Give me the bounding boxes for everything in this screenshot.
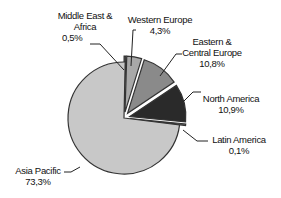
label-value: 4,3% [122, 25, 198, 36]
label-western-europe: Western Europe 4,3% [122, 14, 198, 36]
label-north-america: North America 10,9% [198, 93, 264, 115]
label-name: Asia Pacific [12, 165, 64, 176]
label-value: 10,9% [198, 104, 264, 115]
label-value: 73,3% [12, 176, 64, 187]
label-name: Eastern & [178, 36, 246, 47]
label-eastern-central-europe: Eastern & Central Europe 10,8% [178, 36, 246, 69]
label-asia-pacific: Asia Pacific 73,3% [12, 165, 64, 187]
label-name: Africa [50, 21, 120, 32]
label-value: 0,5% [50, 32, 120, 43]
leader-line-la [183, 130, 208, 141]
label-middle-east-africa: Middle East & Africa 0,5% [50, 10, 120, 43]
leader-line-asia [64, 167, 80, 172]
label-name: Latin America [208, 134, 270, 145]
label-value: 0,1% [208, 145, 270, 156]
label-name: Western Europe [122, 14, 198, 25]
label-name: Central Europe [178, 47, 246, 58]
label-name: Middle East & [50, 10, 120, 21]
label-latin-america: Latin America 0,1% [208, 134, 270, 156]
label-name: North America [198, 93, 264, 104]
label-value: 10,8% [178, 58, 246, 69]
pie-slices [68, 56, 186, 174]
